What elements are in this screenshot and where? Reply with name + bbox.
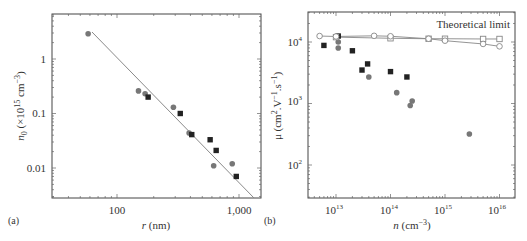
chart-b-xtick-1e14: 1014 bbox=[380, 203, 399, 216]
square-marker bbox=[359, 67, 364, 72]
circle-marker bbox=[426, 36, 432, 42]
circle-marker bbox=[442, 38, 448, 44]
chart-a-xlabel: r (nm) bbox=[142, 219, 171, 232]
chart-a-ytick-1: 1 bbox=[41, 53, 47, 65]
square-marker bbox=[365, 61, 370, 66]
circle-marker bbox=[171, 104, 177, 110]
circle-marker bbox=[371, 33, 377, 39]
square-marker bbox=[189, 132, 194, 137]
circle-marker bbox=[85, 31, 91, 37]
chart-b-xtick-1e16: 1016 bbox=[488, 203, 507, 216]
chart-b-ytick-1e2: 102 bbox=[288, 158, 303, 171]
circle-marker bbox=[467, 131, 473, 137]
circle-marker bbox=[409, 98, 415, 104]
chart-a: 1 0.1 0.01 100 1,000 r (nm) n0 (×1015 cm… bbox=[8, 14, 261, 232]
circle-marker bbox=[388, 33, 394, 39]
circle-marker bbox=[229, 161, 235, 167]
chart-b-ylabel: μ (cm2.V−1.s−1) bbox=[270, 72, 284, 141]
circle-marker bbox=[333, 34, 339, 40]
square-marker bbox=[145, 94, 150, 99]
chart-b-ytick-1e4: 104 bbox=[288, 35, 303, 48]
chart-a-xtick-100: 100 bbox=[109, 204, 126, 216]
circle-marker bbox=[335, 45, 341, 51]
square-marker bbox=[350, 48, 355, 53]
circle-marker bbox=[317, 33, 323, 39]
square-marker bbox=[234, 174, 239, 179]
chart-b: Theoretical limit 104 103 102 1013 1014 … bbox=[264, 12, 515, 232]
circle-marker bbox=[211, 163, 217, 169]
circle-marker bbox=[394, 90, 400, 96]
chart-b-xtick-1e13: 1013 bbox=[325, 203, 344, 216]
chart-a-minor-ticks bbox=[52, 14, 261, 198]
square-marker bbox=[497, 36, 502, 41]
chart-a-plot-area bbox=[52, 14, 261, 198]
chart-b-panel-label: (b) bbox=[264, 215, 276, 227]
chart-a-ytick-0.1: 0.1 bbox=[32, 107, 46, 119]
chart-b-ytick-1e3: 103 bbox=[288, 94, 303, 107]
square-marker bbox=[321, 43, 326, 48]
chart-b-theoretical-lines bbox=[320, 36, 500, 47]
chart-a-ylabel: n0 (×1015 cm−3) bbox=[13, 71, 29, 141]
chart-b-annotation-theoretical-limit: Theoretical limit bbox=[436, 18, 510, 30]
chart-a-fit-line bbox=[92, 32, 254, 198]
figure: 1 0.1 0.01 100 1,000 r (nm) n0 (×1015 cm… bbox=[0, 0, 527, 241]
chart-a-data-points bbox=[85, 31, 239, 179]
chart-a-xtick-1000: 1,000 bbox=[227, 204, 252, 216]
square-marker bbox=[404, 74, 409, 79]
chart-b-data-points bbox=[317, 33, 503, 137]
chart-b-xtick-1e15: 1015 bbox=[434, 203, 453, 216]
chart-b-xlabel: n (cm−3) bbox=[393, 218, 431, 232]
circle-marker bbox=[497, 44, 503, 50]
square-marker bbox=[388, 69, 393, 74]
square-marker bbox=[178, 111, 183, 116]
circle-marker bbox=[366, 74, 372, 80]
circle-marker bbox=[480, 41, 486, 47]
square-marker bbox=[213, 148, 218, 153]
chart-a-ytick-0.01: 0.01 bbox=[27, 162, 46, 174]
circle-marker bbox=[136, 88, 142, 94]
square-marker bbox=[207, 137, 212, 142]
chart-a-panel-label: (a) bbox=[8, 215, 19, 227]
